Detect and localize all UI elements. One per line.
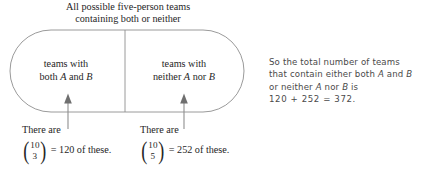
explanation-line-3: or neither A nor B is (269, 81, 421, 93)
caption-neither-formula: ( 10 5 ) = 252 of these. (140, 139, 229, 163)
explanation-line-2-part-a: that contain either both (269, 69, 378, 79)
binomial-stack: 10 5 (148, 140, 157, 161)
explanation-text-block: So the total number of teams that contai… (269, 56, 421, 106)
explanation-total-equation: 120 + 252 = 372. (269, 93, 421, 105)
explanation-line-3-part-c: is (348, 82, 358, 92)
compartment-neither-var-b: B (209, 71, 215, 82)
arrow-head (180, 94, 188, 104)
compartment-neither-line-2: neither A nor B (128, 71, 240, 84)
caption-both: There are ( 10 3 ) = 120 of these. (22, 124, 111, 163)
binomial-top-10: 10 (30, 140, 39, 151)
explanation-line-2: that contain either both A and B (269, 68, 421, 80)
diagram-canvas: All possible five-person teams containin… (0, 0, 422, 172)
explanation-line-3-part-b: nor (322, 82, 342, 92)
caption-neither-result: = 252 of these. (169, 144, 230, 157)
explanation-line-3-part-a: or neither (269, 82, 316, 92)
explanation-line-1: So the total number of teams (269, 56, 421, 68)
diagram-title-line-2: containing both or neither (28, 13, 228, 25)
binomial-coefficient-10-choose-3: ( 10 3 ) (22, 139, 48, 163)
compartment-both-conj: and (66, 71, 86, 82)
compartment-label-both: teams with both A and B (12, 58, 120, 83)
binomial-stack: 10 3 (30, 140, 39, 161)
arrow-head (64, 94, 72, 104)
compartment-both-prefix: both (40, 71, 61, 82)
compartment-neither-line-1: teams with (128, 58, 240, 71)
caption-both-lead: There are (22, 124, 111, 137)
caption-neither-lead: There are (140, 124, 229, 137)
caption-both-formula: ( 10 3 ) = 120 of these. (22, 139, 111, 163)
binomial-top-10: 10 (148, 140, 157, 151)
caption-both-result: = 120 of these. (51, 144, 112, 157)
explanation-line-2-part-b: and (384, 69, 406, 79)
diagram-title-line-1: All possible five-person teams (28, 1, 228, 13)
binomial-bottom-5: 5 (151, 151, 156, 162)
compartment-neither-prefix: neither (153, 71, 184, 82)
compartment-both-line-1: teams with (12, 58, 120, 71)
binomial-coefficient-10-choose-5: ( 10 5 ) (140, 139, 166, 163)
right-paren-glyph: ) (41, 139, 47, 163)
diagram-title: All possible five-person teams containin… (28, 1, 228, 26)
compartment-label-neither: teams with neither A nor B (128, 58, 240, 83)
compartment-both-line-2: both A and B (12, 71, 120, 84)
left-paren-glyph: ( (23, 139, 29, 163)
left-paren-glyph: ( (141, 139, 147, 163)
compartment-both-var-b: B (86, 71, 92, 82)
binomial-bottom-3: 3 (33, 151, 38, 162)
caption-neither: There are ( 10 5 ) = 252 of these. (140, 124, 229, 163)
compartment-neither-conj: nor (190, 71, 209, 82)
right-paren-glyph: ) (159, 139, 165, 163)
explanation-line-2-var-b: B (406, 69, 412, 79)
